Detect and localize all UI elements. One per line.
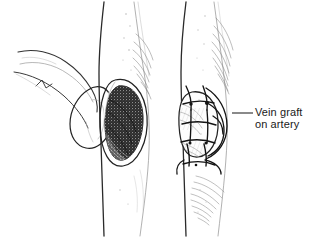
- vein-graft-label-line1: Vein graft: [255, 106, 302, 118]
- vein-graft-label-line2: on artery: [255, 118, 302, 130]
- illustration-canvas: Vein graft on artery: [0, 0, 310, 238]
- vein-graft-label: Vein graft on artery: [255, 106, 302, 130]
